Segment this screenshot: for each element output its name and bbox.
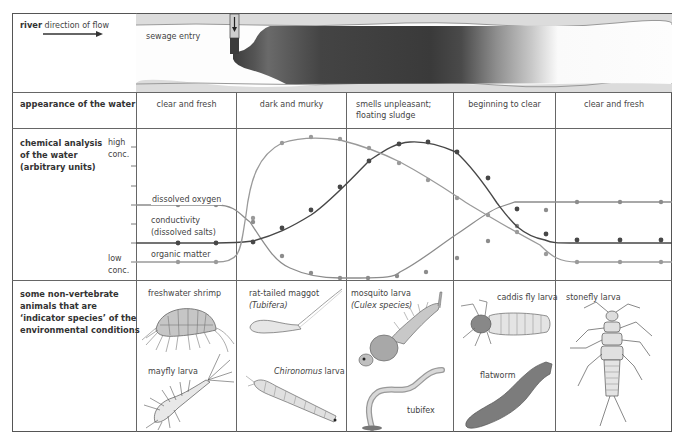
stonefly-larva-icon — [560, 300, 672, 430]
series-label-organic-matter: organic matter — [151, 249, 210, 260]
series-label-oxygen: dissolved oxygen — [151, 194, 222, 205]
rat-tailed-maggot-icon — [246, 285, 346, 345]
caddis-fly-larva-icon — [457, 298, 555, 354]
indicator-label-line: some non-vertebrate — [20, 288, 140, 300]
series-label-conductivity: conductivity (dissolved salts) — [151, 215, 216, 239]
tubifex-label: tubifex — [407, 405, 435, 416]
chironomus-larva-icon — [246, 370, 346, 430]
oxygen-line — [136, 202, 672, 278]
freshwater-shrimp-label: freshwater shrimp — [148, 288, 221, 299]
indicator-species-label: some non-vertebrate animals that are ‘in… — [20, 288, 140, 336]
tubifex-icon — [350, 364, 450, 432]
organic-matter-points — [176, 135, 663, 264]
conductivity-label-line: conductivity — [151, 215, 216, 227]
mosquito-larva-icon — [348, 290, 453, 370]
indicator-label-line: animals that are — [20, 300, 140, 312]
flatworm-icon — [460, 352, 555, 432]
y-axis-ticks — [131, 147, 136, 262]
conductivity-line — [136, 142, 672, 243]
indicator-label-line: ‘indicator species’ of the — [20, 312, 140, 324]
indicator-label-line: environmental conditions — [20, 324, 140, 336]
conductivity-points — [176, 140, 664, 246]
oxygen-points — [176, 200, 663, 280]
mayfly-larva-icon — [140, 350, 236, 430]
conductivity-label-line: (dissolved salts) — [151, 227, 216, 239]
